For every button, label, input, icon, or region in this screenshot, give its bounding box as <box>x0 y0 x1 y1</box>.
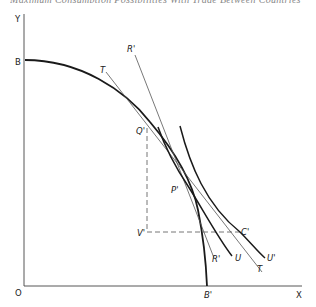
x-axis-label: X <box>296 290 302 300</box>
y-axis-label: Y <box>14 14 21 24</box>
point-v-prime-label: V' <box>137 228 145 238</box>
point-c-prime-label: C' <box>241 227 249 237</box>
point-q-prime-label: Q' <box>136 126 145 136</box>
point-b-prime-label: B' <box>204 290 212 300</box>
origin-label: O <box>15 288 22 298</box>
point-p-prime-label: P' <box>171 185 178 195</box>
curve-u-label: U <box>235 253 242 263</box>
point-b-label: B <box>15 57 21 67</box>
terms-of-trade-line-t <box>106 72 262 272</box>
line-r-prime-lower-label: R' <box>212 254 220 264</box>
line-t-lower-label: T <box>257 264 263 274</box>
trade-diagram: Y X O B B' Q' P' C' V' T T R' R' U U' <box>0 0 316 307</box>
line-t-upper-label: T <box>100 65 106 75</box>
curve-u-prime-label: U' <box>267 253 276 263</box>
line-r-prime-upper-label: R' <box>127 44 135 54</box>
